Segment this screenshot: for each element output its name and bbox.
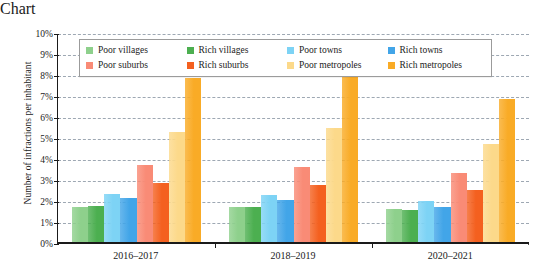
bar-fill	[169, 132, 185, 242]
legend-item[interactable]: Rich villages	[187, 43, 286, 58]
group-separator	[372, 242, 373, 248]
bar[interactable]	[326, 128, 342, 242]
legend-item[interactable]: Rich towns	[388, 43, 487, 58]
bar-fill	[261, 195, 277, 242]
bar[interactable]	[499, 99, 515, 242]
bar[interactable]	[483, 144, 499, 242]
bar-fill	[277, 200, 293, 242]
legend-label: Rich towns	[400, 46, 443, 56]
x-axis-tick-label: 2018–2019	[214, 250, 371, 262]
legend-swatch-icon	[86, 62, 93, 69]
bar[interactable]	[386, 209, 402, 242]
chart-legend: Poor villagesRich villagesPoor townsRich…	[79, 39, 492, 77]
legend-label: Poor villages	[98, 46, 148, 56]
bar[interactable]	[402, 210, 418, 242]
y-axis-tick-label: 9%	[3, 50, 53, 60]
y-axis-tick-labels: 10%9%8%7%6%5%4%3%2%1%0%	[0, 34, 53, 244]
y-axis-tick-label: 3%	[3, 176, 53, 186]
legend-label: Poor towns	[299, 46, 342, 56]
bar-fill	[451, 173, 467, 242]
legend-label: Rich metropoles	[400, 61, 463, 71]
legend-swatch-icon	[187, 47, 194, 54]
group-separator	[215, 242, 216, 248]
legend-item[interactable]: Poor towns	[287, 43, 386, 58]
legend-label: Poor suburbs	[98, 61, 148, 71]
legend-label: Rich villages	[199, 46, 249, 56]
bar[interactable]	[245, 207, 261, 242]
bar-fill	[342, 67, 358, 242]
legend-swatch-icon	[187, 62, 194, 69]
bar-fill	[386, 209, 402, 242]
bar[interactable]	[88, 206, 104, 242]
bar-fill	[326, 128, 342, 242]
y-axis-tick-label: 2%	[3, 197, 53, 207]
bar[interactable]	[185, 78, 201, 242]
bar-fill	[467, 190, 483, 242]
bar-fill	[310, 185, 326, 242]
bar[interactable]	[104, 194, 120, 242]
legend-swatch-icon	[86, 47, 93, 54]
legend-item[interactable]: Poor villages	[86, 43, 185, 58]
y-axis-tick	[54, 244, 59, 245]
y-axis-tick-label: 8%	[3, 71, 53, 81]
bar-fill	[434, 207, 450, 242]
bar[interactable]	[294, 167, 310, 242]
bar[interactable]	[310, 185, 326, 242]
legend-item[interactable]: Poor metropoles	[287, 58, 386, 73]
bar[interactable]	[169, 132, 185, 242]
bar[interactable]	[229, 207, 245, 242]
y-axis-tick-label: 0%	[3, 239, 53, 249]
bar-fill	[104, 194, 120, 242]
legend-item[interactable]: Rich metropoles	[388, 58, 487, 73]
bar-fill	[294, 167, 310, 242]
y-axis-tick-label: 7%	[3, 92, 53, 102]
bar-fill	[120, 198, 136, 242]
bar[interactable]	[137, 165, 153, 242]
bar[interactable]	[467, 190, 483, 242]
legend-swatch-icon	[388, 47, 395, 54]
legend-swatch-icon	[388, 62, 395, 69]
bar[interactable]	[451, 173, 467, 242]
bar-fill	[418, 201, 434, 242]
bar[interactable]	[153, 183, 169, 242]
legend-label: Poor metropoles	[299, 61, 362, 71]
legend-item[interactable]: Rich suburbs	[187, 58, 286, 73]
bar-chart: Number of infractions per inhabitant 10%…	[0, 18, 545, 262]
bar-fill	[229, 207, 245, 242]
legend-item[interactable]: Poor suburbs	[86, 58, 185, 73]
bar-fill	[153, 183, 169, 242]
y-axis-tick-label: 1%	[3, 218, 53, 228]
x-axis-tick-label: 2016–2017	[57, 250, 214, 262]
x-axis-tick-label: 2020–2021	[372, 250, 529, 262]
bar-fill	[402, 210, 418, 242]
bar-fill	[245, 207, 261, 242]
bar-fill	[137, 165, 153, 242]
bar-fill	[72, 207, 88, 242]
bar[interactable]	[120, 198, 136, 242]
legend-swatch-icon	[287, 62, 294, 69]
y-axis-tick-label: 5%	[3, 134, 53, 144]
y-axis-tick-label: 4%	[3, 155, 53, 165]
bar-fill	[499, 99, 515, 242]
y-axis-tick-label: 6%	[3, 113, 53, 123]
bar-fill	[483, 144, 499, 242]
legend-swatch-icon	[287, 47, 294, 54]
bar[interactable]	[342, 67, 358, 242]
legend-label: Rich suburbs	[199, 61, 249, 71]
x-axis-tick-labels: 2016–20172018–20192020–2021	[57, 250, 529, 262]
bar[interactable]	[261, 195, 277, 242]
bar[interactable]	[72, 207, 88, 242]
bar[interactable]	[277, 200, 293, 242]
bar[interactable]	[434, 207, 450, 242]
bar-fill	[185, 78, 201, 242]
bar[interactable]	[418, 201, 434, 242]
bar-fill	[88, 206, 104, 242]
y-axis-tick-label: 10%	[3, 29, 53, 39]
